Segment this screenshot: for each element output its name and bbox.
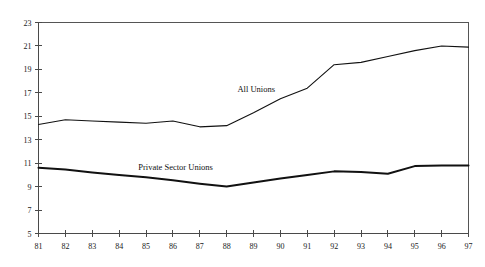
series-label-all-unions: All Unions bbox=[237, 84, 275, 94]
series-lines bbox=[39, 46, 469, 187]
x-tick-label: 85 bbox=[142, 242, 150, 251]
x-tick-label: 88 bbox=[223, 242, 231, 251]
line-chart: 57911131517192123 8182838485868788899091… bbox=[0, 0, 485, 267]
x-tick-label: 89 bbox=[250, 242, 258, 251]
y-tick-label: 13 bbox=[24, 136, 32, 145]
series-annotations: All UnionsPrivate Sector Unions bbox=[138, 84, 275, 171]
x-tick-label: 87 bbox=[196, 242, 204, 251]
x-tick-label: 97 bbox=[465, 242, 473, 251]
y-tick-label: 21 bbox=[24, 42, 32, 51]
x-tick-label: 94 bbox=[384, 242, 392, 251]
y-tick-label: 9 bbox=[28, 183, 32, 192]
y-tick-label: 15 bbox=[24, 112, 32, 121]
x-tick-label: 86 bbox=[169, 242, 177, 251]
y-tick-label: 17 bbox=[24, 89, 32, 98]
x-tick-label: 90 bbox=[276, 242, 284, 251]
x-tick-label: 82 bbox=[61, 242, 69, 251]
y-tick-label: 11 bbox=[24, 159, 32, 168]
x-tick-label: 91 bbox=[303, 242, 311, 251]
y-tick-label: 5 bbox=[28, 230, 32, 239]
y-tick-label: 7 bbox=[28, 206, 32, 215]
series-line-private-sector-unions bbox=[39, 166, 469, 187]
x-tick-label: 81 bbox=[35, 242, 43, 251]
x-tick-label: 95 bbox=[411, 242, 419, 251]
plot-frame bbox=[39, 23, 469, 234]
x-tick-label: 83 bbox=[88, 242, 96, 251]
x-tick-label: 92 bbox=[330, 242, 338, 251]
x-tick-label: 84 bbox=[115, 242, 123, 251]
y-tick-label: 23 bbox=[24, 19, 32, 28]
chart-container: 57911131517192123 8182838485868788899091… bbox=[0, 0, 485, 267]
series-label-private-sector-unions: Private Sector Unions bbox=[138, 162, 213, 172]
x-tick-label: 96 bbox=[438, 242, 446, 251]
y-tick-label: 19 bbox=[24, 65, 32, 74]
y-axis-ticks: 57911131517192123 bbox=[24, 19, 43, 239]
x-tick-label: 93 bbox=[357, 242, 365, 251]
